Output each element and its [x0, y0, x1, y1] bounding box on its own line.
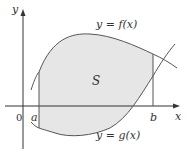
- y-axis-arrow-icon: [21, 9, 26, 16]
- origin-label: 0: [16, 112, 22, 123]
- curve-f-label: y = f(x): [95, 18, 137, 31]
- x-axis-label: x: [175, 110, 182, 123]
- y-axis-label: y: [11, 3, 19, 16]
- curve-g-label: y = g(x): [95, 129, 140, 142]
- bound-a-label: a: [31, 111, 38, 124]
- area-between-curves-diagram: y x 0 a b S y = f(x) y = g(x): [0, 0, 187, 157]
- bound-b-label: b: [150, 111, 157, 124]
- region-s-label: S: [92, 74, 100, 88]
- x-axis-arrow-icon: [173, 104, 180, 109]
